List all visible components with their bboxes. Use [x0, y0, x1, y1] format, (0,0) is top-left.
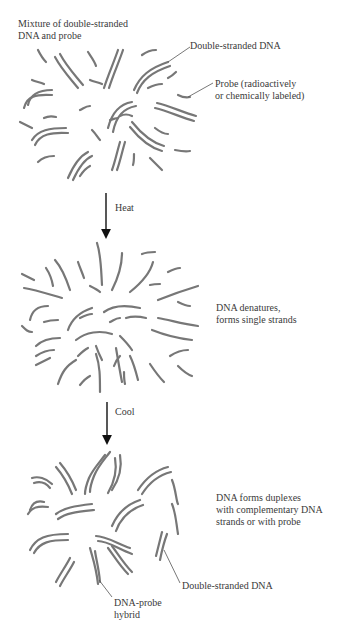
leader-line-probe	[188, 83, 213, 97]
label-denatures-line2: forms single strands	[216, 314, 297, 326]
leader-line-dsdna-top	[168, 47, 190, 62]
label-denatures-line1: DNA denatures,	[216, 302, 297, 314]
leader-line-dsdna-bottom	[164, 550, 180, 583]
label-duplexes-line2: with complementary DNA	[216, 504, 323, 516]
label-duplexes-line1: DNA forms duplexes	[216, 492, 323, 504]
label-probe-line1: Probe (radioactively	[215, 78, 304, 90]
stage1-title-line2: DNA and probe	[18, 30, 128, 42]
stage2-strand-cluster	[22, 243, 198, 392]
label-denatures: DNA denatures, forms single strands	[216, 302, 297, 326]
label-cool: Cool	[115, 406, 134, 418]
label-hybrid-line1: DNA-probe	[114, 597, 162, 609]
stage1-title: Mixture of double-stranded DNA and probe	[18, 18, 128, 42]
label-duplexes-line3: strands or with probe	[216, 516, 323, 528]
leader-line-hybrid	[99, 580, 112, 597]
label-double-stranded-dna-top: Double-stranded DNA	[190, 40, 281, 52]
label-heat: Heat	[115, 202, 134, 214]
stage1-title-line1: Mixture of double-stranded	[18, 18, 128, 30]
stage3-strand-cluster	[28, 452, 178, 586]
label-dna-probe-hybrid: DNA-probe hybrid	[114, 597, 162, 621]
label-hybrid-line2: hybrid	[114, 609, 162, 621]
label-probe: Probe (radioactively or chemically label…	[215, 78, 304, 102]
label-probe-line2: or chemically labeled)	[215, 90, 304, 102]
label-duplexes: DNA forms duplexes with complementary DN…	[216, 492, 323, 528]
stage1-strand-cluster	[20, 50, 196, 180]
label-double-stranded-dna-bottom: Double-stranded DNA	[182, 580, 273, 592]
